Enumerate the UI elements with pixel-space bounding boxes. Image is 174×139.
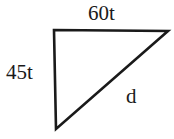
left-edge-label: 45t — [6, 62, 33, 83]
triangle-figure: 60t 45t d — [0, 0, 174, 139]
hypotenuse-label: d — [126, 86, 137, 107]
top-edge-label: 60t — [88, 3, 115, 24]
right-triangle-shape — [54, 30, 168, 129]
